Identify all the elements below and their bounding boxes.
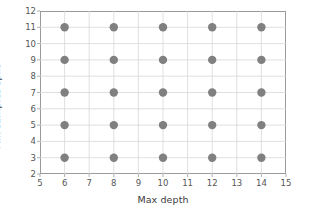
x-tick-label: 14 xyxy=(256,178,267,188)
data-point-marker xyxy=(110,121,118,129)
x-tick-label: 15 xyxy=(281,178,292,188)
data-point-marker xyxy=(208,23,216,31)
data-point-marker xyxy=(257,154,265,162)
data-point-marker xyxy=(257,121,265,129)
y-axis-label: Min samples split xyxy=(0,0,14,214)
y-tick-label: 10 xyxy=(18,39,36,49)
data-point-marker xyxy=(257,88,265,96)
y-tick-label: 2 xyxy=(18,169,36,179)
y-tick-label: 5 xyxy=(18,120,36,130)
x-tick-label: 6 xyxy=(62,178,67,188)
x-tick-label: 9 xyxy=(136,178,141,188)
y-tick-label: 6 xyxy=(18,104,36,114)
y-tick-label: 12 xyxy=(18,6,36,16)
y-axis-label-text: Min samples split xyxy=(0,65,2,149)
scatter-plot-figure: Min samples split 56789101112131415 2345… xyxy=(0,0,318,214)
x-tick-label: 13 xyxy=(231,178,242,188)
y-tick-label: 3 xyxy=(18,153,36,163)
data-point-marker xyxy=(208,154,216,162)
data-point-marker xyxy=(60,56,68,64)
y-tick-label: 4 xyxy=(18,136,36,146)
y-tick-label: 8 xyxy=(18,71,36,81)
data-point-marker xyxy=(257,56,265,64)
data-point-marker xyxy=(208,56,216,64)
x-axis-label: Max depth xyxy=(40,194,286,205)
y-tick-label: 9 xyxy=(18,55,36,65)
data-point-marker xyxy=(159,154,167,162)
data-point-marker xyxy=(257,23,265,31)
data-point-marker xyxy=(159,121,167,129)
x-tick-label: 12 xyxy=(207,178,218,188)
data-point-marker xyxy=(60,88,68,96)
x-tick-label: 10 xyxy=(158,178,169,188)
x-tick-label: 11 xyxy=(182,178,193,188)
data-point-marker xyxy=(60,121,68,129)
y-tick-label: 11 xyxy=(18,22,36,32)
x-tick-label: 7 xyxy=(86,178,91,188)
data-point-marker xyxy=(208,88,216,96)
plot-canvas xyxy=(40,11,286,174)
x-tick-label: 8 xyxy=(111,178,116,188)
data-point-marker xyxy=(110,23,118,31)
data-point-marker xyxy=(60,23,68,31)
data-point-marker xyxy=(110,154,118,162)
data-point-marker xyxy=(110,56,118,64)
data-point-marker xyxy=(159,56,167,64)
y-tick-label: 7 xyxy=(18,88,36,98)
data-point-marker xyxy=(159,23,167,31)
x-tick-label: 5 xyxy=(37,178,42,188)
data-point-marker xyxy=(60,154,68,162)
data-point-marker xyxy=(159,88,167,96)
data-point-marker xyxy=(110,88,118,96)
data-point-marker xyxy=(208,121,216,129)
